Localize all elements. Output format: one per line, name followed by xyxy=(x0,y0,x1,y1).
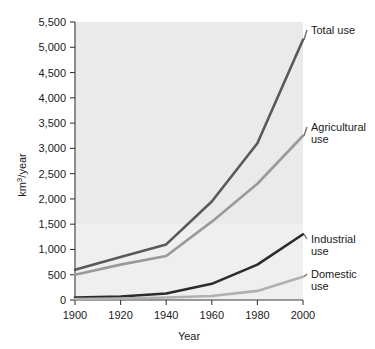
svg-text:km3/year: km3/year xyxy=(15,153,28,197)
y-tick-label: 1,500 xyxy=(38,218,66,230)
y-axis-ticks: 05001,0001,5002,0002,5003,0003,5004,0004… xyxy=(38,16,75,306)
series-label-line1: Agricultural xyxy=(311,121,366,133)
x-tick-label: 1940 xyxy=(154,309,178,321)
y-tick-label: 5,500 xyxy=(38,16,66,28)
x-tick-label: 1960 xyxy=(200,309,224,321)
y-axis-title: km3/year xyxy=(15,153,28,197)
plot-background-upper xyxy=(75,22,303,224)
x-axis-title: Year xyxy=(178,330,201,342)
y-tick-label: 1,000 xyxy=(38,243,66,255)
series-label-line2: use xyxy=(311,133,329,145)
x-tick-label: 2000 xyxy=(291,309,315,321)
y-tick-label: 500 xyxy=(48,269,66,281)
series-label-line2: use xyxy=(311,245,329,257)
chart-canvas: 05001,0001,5002,0002,5003,0003,5004,0004… xyxy=(0,0,375,349)
series-label-industrial-use: Industrialuse xyxy=(311,233,356,257)
series-label-line1: Domestic xyxy=(311,268,357,280)
series-label-line2: use xyxy=(311,280,329,292)
leader-line-agricultural-use xyxy=(304,127,307,136)
water-use-line-chart: 05001,0001,5002,0002,5003,0003,5004,0004… xyxy=(0,0,375,349)
y-tick-label: 4,000 xyxy=(38,92,66,104)
y-tick-label: 3,000 xyxy=(38,142,66,154)
x-axis-ticks: 190019201940196019802000 xyxy=(63,300,315,321)
x-tick-label: 1900 xyxy=(63,309,87,321)
y-tick-label: 2,500 xyxy=(38,168,66,180)
leader-lines-group xyxy=(304,30,307,277)
series-label-agricultural-use: Agriculturaluse xyxy=(311,121,366,145)
y-tick-label: 4,500 xyxy=(38,67,66,79)
series-label-line1: Total use xyxy=(311,24,355,36)
y-tick-label: 0 xyxy=(60,294,66,306)
series-label-domestic-use: Domesticuse xyxy=(311,268,357,292)
y-axis-title-main: km xyxy=(16,182,28,197)
leader-line-total-use xyxy=(304,30,307,40)
series-labels-group: Total useAgriculturaluseIndustrialuseDom… xyxy=(311,24,366,292)
leader-line-domestic-use xyxy=(304,274,307,277)
y-axis-title-tail: /year xyxy=(16,153,28,178)
series-label-total-use: Total use xyxy=(311,24,355,36)
y-tick-label: 3,500 xyxy=(38,117,66,129)
series-label-line1: Industrial xyxy=(311,233,356,245)
y-tick-label: 2,000 xyxy=(38,193,66,205)
y-tick-label: 5,000 xyxy=(38,41,66,53)
leader-line-industrial-use xyxy=(304,234,307,239)
x-tick-label: 1920 xyxy=(108,309,132,321)
x-tick-label: 1980 xyxy=(245,309,269,321)
